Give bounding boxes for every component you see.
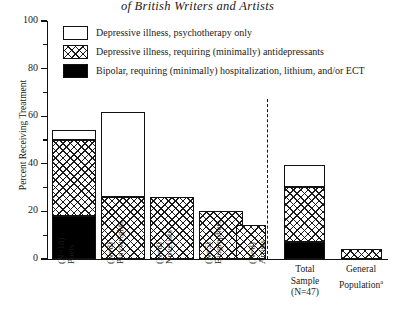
x-label-general-line2: Populationa bbox=[327, 276, 395, 292]
bar-general-population-seg-antidepressants bbox=[341, 249, 382, 259]
x-label-biographers: Biographers bbox=[213, 220, 224, 264]
x-label-playwrights: Playwrights bbox=[115, 221, 126, 264]
legend-label-antidepressants: Depressive illness, requiring (minimally… bbox=[96, 45, 324, 59]
y-tick-minor-50 bbox=[43, 139, 47, 140]
y-tick-label-100: 100 bbox=[0, 14, 38, 25]
y-tick-label-0: 0 bbox=[0, 252, 38, 263]
legend-swatch-black-icon bbox=[63, 64, 88, 78]
legend-swatch-white-icon bbox=[63, 26, 88, 40]
x-label-novelists-n: (N=8) bbox=[154, 242, 165, 264]
legend-swatch-hatch-icon bbox=[63, 45, 88, 59]
y-tick-label-80: 80 bbox=[0, 62, 38, 73]
x-label-novelists-name: Novelists bbox=[164, 230, 174, 264]
x-label-artists-n: (N=8) bbox=[247, 242, 258, 264]
y-tick-80 bbox=[41, 68, 47, 69]
y-tick-minor-30 bbox=[43, 187, 47, 188]
y-tick-40 bbox=[41, 163, 47, 164]
x-label-artists-name: Artists bbox=[257, 240, 267, 264]
y-tick-0 bbox=[41, 258, 47, 259]
bar-poets-seg-psychotherapy bbox=[52, 130, 96, 140]
y-tick-label-60: 60 bbox=[0, 109, 38, 120]
group-divider bbox=[267, 99, 268, 259]
x-label-poets: Poets bbox=[66, 244, 77, 264]
y-tick-100 bbox=[41, 20, 47, 21]
x-label-poets-name: Poets bbox=[66, 244, 76, 264]
y-tick-label-40: 40 bbox=[0, 157, 38, 168]
bar-total-sample-seg-psychotherapy bbox=[284, 165, 325, 188]
x-label-playwrights-name: Playwrights bbox=[115, 221, 125, 264]
y-tick-20 bbox=[41, 211, 47, 212]
x-label-general-line1: General bbox=[327, 264, 395, 276]
bar-total-sample bbox=[284, 165, 325, 259]
x-label-playwrights-n: (N=8) bbox=[105, 242, 116, 264]
y-tick-label-20: 20 bbox=[0, 204, 38, 215]
chart-figure: of British Writers and Artists Percent R… bbox=[0, 0, 395, 321]
y-tick-60 bbox=[41, 116, 47, 117]
bar-general-population bbox=[341, 249, 382, 259]
general-population-footnote-marker: a bbox=[380, 278, 383, 285]
x-label-general-population: General Populationa bbox=[327, 264, 395, 291]
x-label-biographers-name: Biographers bbox=[213, 220, 223, 264]
y-axis-line bbox=[47, 21, 48, 260]
bar-poets-seg-antidepressants bbox=[52, 140, 96, 216]
legend-label-bipolar: Bipolar, requiring (minimally) hospitali… bbox=[96, 64, 365, 78]
y-tick-minor-10 bbox=[43, 235, 47, 236]
y-tick-minor-90 bbox=[43, 44, 47, 45]
y-axis-title: Percent Receiving Treatment bbox=[18, 60, 28, 210]
bar-playwrights-seg-psychotherapy bbox=[101, 112, 145, 197]
chart-title: of British Writers and Artists bbox=[0, 0, 395, 14]
legend-label-psychotherapy: Depressive illness, psychotherapy only bbox=[96, 26, 252, 40]
x-label-poets-n: (N=18) bbox=[56, 237, 67, 264]
y-tick-minor-70 bbox=[43, 92, 47, 93]
bar-total-sample-seg-antidepressants bbox=[284, 187, 325, 242]
bar-total-sample-seg-bipolar bbox=[284, 242, 325, 259]
x-label-biographers-n: (N=5) bbox=[203, 242, 214, 264]
x-label-artists: Artists bbox=[257, 240, 268, 264]
x-label-novelists: Novelists bbox=[164, 230, 175, 264]
